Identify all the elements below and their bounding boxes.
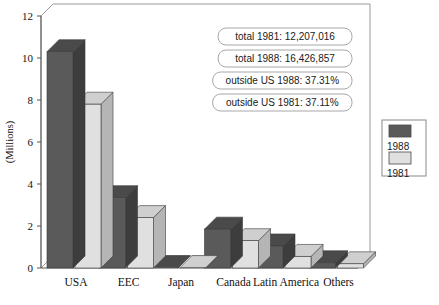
y-tick-label: 0 bbox=[28, 262, 34, 274]
annotation-label: outside US 1981: 37.11% bbox=[226, 97, 339, 108]
legend-swatch-1988 bbox=[389, 125, 411, 137]
annotation-label: total 1981: 12,207,016 bbox=[235, 31, 335, 42]
annotation-3: outside US 1988: 37.31% bbox=[213, 72, 352, 89]
annotation-2: total 1988: 16,426,857 bbox=[218, 50, 352, 67]
y-axis-title-group: (Millions) bbox=[4, 120, 16, 163]
category-label-canada: Canada bbox=[216, 276, 250, 288]
category-label-japan: Japan bbox=[168, 276, 194, 289]
legend: 19881981 bbox=[382, 120, 426, 179]
legend-swatch-1981 bbox=[389, 152, 411, 164]
category-label-others: Others bbox=[323, 276, 354, 288]
bar-front-face bbox=[47, 52, 73, 268]
y-axis-title: (Millions) bbox=[4, 120, 16, 163]
annotation-label: total 1988: 16,426,857 bbox=[235, 53, 335, 64]
y-tick-label: 12 bbox=[22, 10, 33, 22]
chart-container: 024681012 USAEECJapanCanadaLatin America… bbox=[0, 0, 439, 305]
bar-side-face bbox=[73, 40, 85, 268]
category-label-latin-america: Latin America bbox=[253, 276, 319, 288]
bar-usa-1988 bbox=[47, 40, 85, 268]
bar-side-face bbox=[126, 186, 138, 268]
bar-chart: 024681012 USAEECJapanCanadaLatin America… bbox=[0, 0, 439, 305]
annotation-label: outside US 1988: 37.31% bbox=[226, 75, 340, 86]
bar-side-face bbox=[101, 92, 113, 268]
y-tick-label: 6 bbox=[28, 136, 34, 148]
annotation-1: total 1981: 12,207,016 bbox=[218, 28, 352, 45]
y-tick-label: 4 bbox=[28, 178, 34, 190]
legend-label-1981: 1981 bbox=[387, 168, 410, 179]
legend-label-1988: 1988 bbox=[387, 141, 410, 152]
y-tick-label: 2 bbox=[28, 220, 34, 232]
annotation-4: outside US 1981: 37.11% bbox=[213, 94, 352, 111]
bar-front-face bbox=[338, 264, 364, 268]
category-label-eec: EEC bbox=[118, 276, 140, 288]
category-label-usa: USA bbox=[64, 276, 88, 288]
y-tick-label: 10 bbox=[22, 52, 34, 64]
y-tick-label: 8 bbox=[28, 94, 34, 106]
